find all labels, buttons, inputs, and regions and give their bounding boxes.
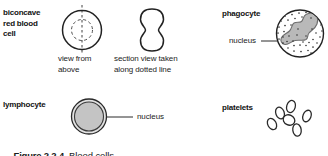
platelets-group — [265, 99, 312, 136]
platelet — [285, 99, 297, 113]
figure-number: Figure 2.2.4 — [14, 150, 64, 156]
blood-cells-figure: biconcave red blood cell view from above… — [0, 0, 328, 156]
rbc-section-view — [141, 9, 164, 51]
platelet — [292, 123, 302, 136]
figure-title: Blood cells — [69, 150, 114, 156]
phagocyte-cell — [261, 10, 324, 57]
lymphocyte-nucleus — [75, 102, 104, 131]
rbc-top-view — [63, 5, 102, 55]
platelet — [265, 117, 278, 132]
blood-cells-drawing — [0, 0, 328, 156]
lymphocyte-cell — [72, 99, 134, 134]
figure-caption: Figure 2.2.4 Blood cells — [3, 138, 114, 156]
rbc-section-outline — [141, 9, 164, 51]
platelet — [301, 109, 313, 123]
